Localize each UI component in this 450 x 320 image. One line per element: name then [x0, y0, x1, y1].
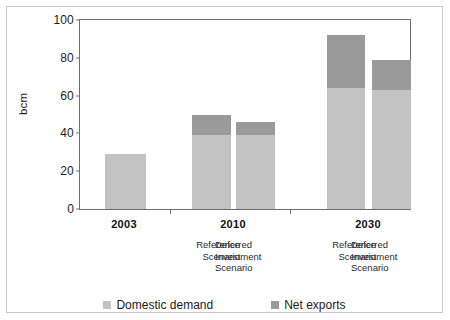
y-tick-mark-80 [76, 57, 80, 58]
x-group-2003: 2003 [111, 218, 137, 230]
x-group-2030: 2030 [355, 218, 381, 230]
y-tick-mark-0 [76, 209, 80, 210]
x-sublabel-line: Deferred [215, 239, 277, 251]
x-axis-separator-2 [290, 209, 291, 214]
x-sublabel-line: Deferred [351, 239, 413, 251]
chart-legend: Domestic demand Net exports [7, 298, 442, 312]
x-group-year: 2003 [111, 218, 137, 230]
bar-2003 [105, 154, 146, 209]
plot-area: 100 80 60 40 20 0 [79, 19, 411, 210]
legend-swatch-icon [103, 301, 111, 309]
bar-segment-domestic-demand [192, 135, 231, 209]
x-sublabel-2010-deferred: Deferred Investment Scenario [215, 239, 277, 274]
legend-label: Domestic demand [116, 298, 213, 312]
y-tick-label-80: 80 [60, 51, 74, 65]
chart-figure: bcm 100 80 60 40 20 0 [6, 6, 443, 313]
x-axis-separator-1 [170, 209, 171, 214]
x-sublabel-line: Scenario [351, 262, 413, 274]
bar-segment-net-exports [327, 35, 365, 88]
x-group-year: 2030 [355, 218, 381, 230]
bar-2030-deferred [372, 60, 411, 209]
x-group-2010: 2010 [220, 218, 246, 230]
legend-swatch-icon [271, 301, 279, 309]
y-axis-label: bcm [17, 93, 29, 115]
legend-label: Net exports [284, 298, 345, 312]
y-tick-label-20: 20 [60, 164, 74, 178]
x-sublabel-2030-deferred: Deferred Investment Scenario [351, 239, 413, 274]
legend-item-net-exports: Net exports [271, 298, 345, 312]
bar-segment-net-exports [372, 60, 411, 90]
y-tick-mark-60 [76, 95, 80, 96]
x-sublabel-line: Scenario [215, 262, 277, 274]
x-sublabel-line: Investment [215, 251, 277, 263]
bar-segment-domestic-demand [327, 88, 365, 209]
bar-segment-domestic-demand [105, 154, 146, 209]
y-tick-mark-40 [76, 133, 80, 134]
y-tick-label-40: 40 [60, 126, 74, 140]
y-tick-label-60: 60 [60, 89, 74, 103]
bar-2010-deferred [236, 122, 275, 209]
bar-2030-reference [327, 35, 365, 209]
y-tick-mark-100 [76, 20, 80, 21]
bar-segment-domestic-demand [372, 90, 411, 209]
y-tick-mark-20 [76, 171, 80, 172]
bar-segment-domestic-demand [236, 135, 275, 209]
bar-segment-net-exports [192, 115, 231, 136]
bar-segment-net-exports [236, 122, 275, 135]
x-sublabel-line: Investment [351, 251, 413, 263]
x-group-year: 2010 [220, 218, 246, 230]
y-tick-label-100: 100 [53, 13, 74, 27]
legend-item-domestic-demand: Domestic demand [103, 298, 213, 312]
bar-2010-reference [192, 115, 231, 210]
y-tick-label-0: 0 [67, 202, 74, 216]
